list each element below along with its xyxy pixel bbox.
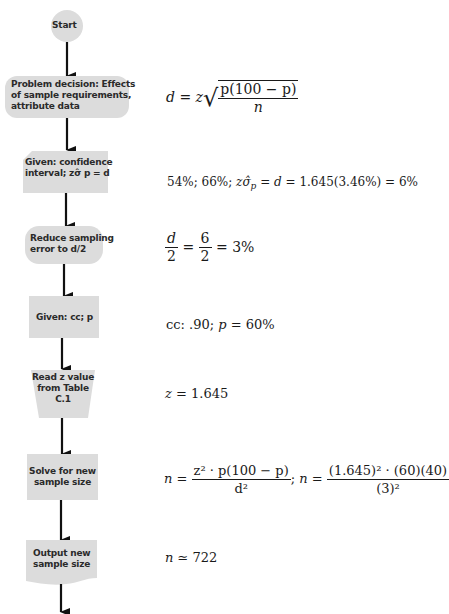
equation-result: n ≃ 722 [165, 550, 217, 565]
given-cc-label: Given: cc; p [36, 312, 93, 323]
read-z-line: Read z value [31, 372, 95, 383]
given-confidence-line: Given: confidence [25, 157, 113, 168]
problem-label-line: Problem decision: Effects [11, 79, 135, 90]
reduce-line: Reduce sampling [30, 233, 114, 244]
eq3-num1: d [167, 230, 176, 246]
solve-label: Solve for new sample size [27, 466, 98, 488]
equation-half-error: d2 = 62 = 3% [165, 230, 254, 265]
given-confidence-label: Given: confidence interval; zσ̂ p = d [25, 157, 113, 179]
eq4-part: cc: .90; [166, 317, 218, 332]
given-confidence-line: interval; zσ̂ p = d [25, 168, 113, 179]
read-z-line: C.1 [31, 394, 95, 405]
solve-line: sample size [27, 477, 98, 488]
eq6-n2: n [299, 471, 307, 486]
output-line: sample size [33, 559, 90, 570]
read-z-label: Read z value from Table C.1 [31, 372, 95, 405]
equation-z-value: z = 1.645 [165, 386, 228, 401]
eq3-den2: 2 [199, 248, 212, 265]
sqrt-icon: √ [203, 84, 218, 112]
equation-confidence-interval: 54%; 66%; zσ̂p = d = 1.645(3.46%) = 6% [167, 175, 418, 191]
eq1-lhs: d = z [166, 89, 203, 105]
reduce-line: error to d/2 [30, 244, 114, 255]
output-label: Output new sample size [33, 548, 90, 570]
equation-given-cc: cc: .90; p = 60% [166, 317, 275, 332]
eq3-result: = 3% [212, 239, 255, 255]
eq6-den2: (3)² [327, 480, 449, 497]
read-z-line: from Table [31, 383, 95, 394]
eq6-separator: ; [291, 471, 300, 486]
eq3-equals: = [178, 239, 199, 255]
problem-label-line: of sample requirements, [11, 90, 135, 101]
start-label: Start [52, 20, 77, 31]
eq5-z: z [165, 386, 172, 401]
problem-label: Problem decision: Effects of sample requ… [11, 79, 135, 112]
eq1-numerator: p(100 − p) [218, 81, 298, 99]
solve-line: Solve for new [27, 466, 98, 477]
eq3-num2: 6 [199, 230, 212, 248]
eq3-den1: 2 [165, 248, 178, 265]
eq6-num1: z² · p(100 − p) [192, 462, 291, 480]
eq6-equals: = [308, 471, 327, 486]
eq7-value: ≃ 722 [173, 550, 217, 565]
eq2-part: = [256, 175, 274, 189]
output-line: Output new [33, 548, 90, 559]
problem-label-line: attribute data [11, 101, 135, 112]
eq1-denominator: n [254, 99, 263, 115]
eq6-equals: = [172, 471, 191, 486]
eq6-num2: (1.645)² · (60)(40) [327, 462, 449, 480]
eq4-p: p [218, 317, 226, 332]
eq2-part: = 1.645(3.46%) = 6% [282, 175, 418, 189]
equation-margin-of-error: d = z√p(100 − p)n [166, 80, 298, 116]
eq5-value: = 1.645 [172, 386, 228, 401]
eq2-sigma: σ̂ [242, 175, 250, 189]
eq2-part: 54%; 66%; [167, 175, 236, 189]
eq6-den1: d² [192, 480, 291, 497]
eq4-part: = 60% [227, 317, 275, 332]
reduce-label: Reduce sampling error to d/2 [30, 233, 114, 255]
equation-sample-size: n = z² · p(100 − p)d²; n = (1.645)² · (6… [164, 462, 449, 497]
eq2-d: d [274, 175, 282, 189]
